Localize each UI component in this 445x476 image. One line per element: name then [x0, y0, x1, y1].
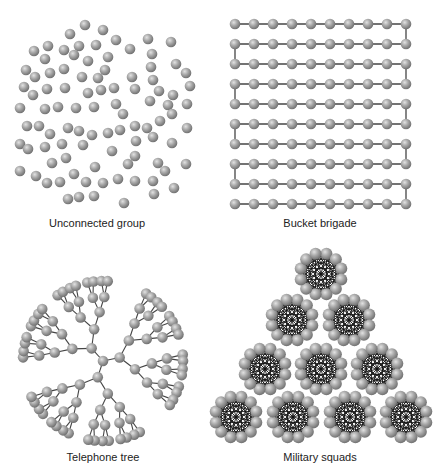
node — [40, 54, 51, 65]
node — [153, 158, 164, 169]
node — [165, 400, 176, 411]
node — [102, 276, 113, 287]
node — [349, 431, 361, 443]
node — [154, 86, 165, 97]
node — [382, 119, 393, 130]
node — [230, 39, 241, 50]
node — [107, 146, 118, 157]
node — [249, 179, 260, 190]
node — [320, 383, 332, 395]
node — [148, 176, 159, 187]
node — [401, 79, 412, 90]
node — [83, 434, 94, 445]
node — [185, 81, 196, 92]
node — [344, 179, 355, 190]
node — [47, 316, 58, 327]
node — [118, 109, 129, 120]
node — [268, 119, 279, 130]
node — [382, 19, 393, 30]
node — [90, 162, 101, 173]
node — [161, 364, 172, 375]
node — [391, 358, 403, 370]
node — [47, 158, 58, 169]
node — [45, 68, 56, 79]
node — [401, 159, 412, 170]
node — [363, 59, 374, 70]
node — [75, 312, 86, 323]
node — [363, 79, 374, 90]
node — [235, 431, 247, 443]
node — [405, 431, 417, 443]
node — [147, 358, 158, 369]
node — [173, 329, 184, 340]
node — [42, 178, 53, 189]
node — [141, 334, 152, 345]
node — [249, 119, 260, 130]
node — [53, 102, 64, 113]
node — [382, 139, 393, 150]
node — [57, 329, 68, 340]
node — [88, 419, 99, 430]
node — [28, 90, 39, 101]
node — [115, 125, 126, 136]
node — [37, 304, 48, 315]
node — [124, 335, 135, 346]
node — [162, 353, 173, 364]
node — [40, 142, 51, 153]
node — [306, 309, 318, 321]
node — [325, 139, 336, 150]
node — [167, 138, 178, 149]
node — [363, 199, 374, 210]
node — [98, 356, 109, 367]
node — [363, 19, 374, 30]
node — [401, 19, 412, 30]
node — [344, 19, 355, 30]
node — [115, 434, 126, 445]
node — [230, 99, 241, 110]
node — [169, 183, 180, 194]
node — [249, 139, 260, 150]
node — [382, 199, 393, 210]
node — [119, 198, 130, 209]
node — [306, 179, 317, 190]
node — [363, 119, 374, 130]
node — [29, 46, 40, 57]
node — [335, 358, 347, 370]
node — [129, 318, 140, 329]
node — [401, 139, 412, 150]
node — [152, 389, 163, 400]
node — [166, 37, 177, 48]
node — [344, 99, 355, 110]
node — [401, 39, 412, 50]
node — [127, 72, 138, 83]
node — [167, 109, 178, 120]
node — [69, 50, 80, 61]
node — [325, 59, 336, 70]
node — [344, 139, 355, 150]
node — [71, 103, 82, 114]
node — [23, 144, 34, 155]
node — [103, 128, 114, 139]
node — [268, 179, 279, 190]
node — [145, 96, 156, 107]
node — [287, 79, 298, 90]
node — [96, 85, 107, 96]
node — [320, 288, 332, 300]
node — [89, 102, 100, 113]
node — [366, 343, 378, 355]
node — [268, 139, 279, 150]
node — [287, 39, 298, 50]
node — [344, 39, 355, 50]
node — [134, 303, 145, 314]
node — [99, 292, 110, 303]
node — [147, 49, 158, 60]
node — [89, 324, 100, 335]
node — [19, 82, 30, 93]
node — [225, 391, 237, 403]
node — [125, 414, 136, 425]
node — [348, 334, 360, 346]
node — [22, 121, 33, 132]
node — [249, 199, 260, 210]
node — [363, 159, 374, 170]
node — [142, 377, 153, 388]
